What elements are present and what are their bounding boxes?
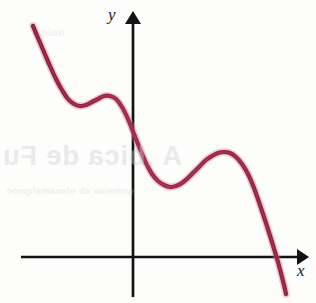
graph-figure: y x A .bica de Fu gnmoiav ab oianamalqmo… [0, 0, 316, 303]
y-axis-arrowhead [125, 11, 141, 24]
x-axis-label: x [297, 262, 305, 279]
graph-canvas [0, 0, 316, 303]
y-axis-label: y [108, 6, 116, 23]
function-curve [33, 26, 286, 294]
function-curve-core [33, 26, 286, 294]
function-curve-halo [33, 26, 286, 294]
